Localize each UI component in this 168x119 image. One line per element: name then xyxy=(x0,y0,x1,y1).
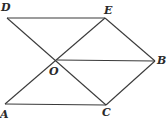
diagram-canvas: D E O B A C xyxy=(0,0,168,119)
label-O: O xyxy=(49,65,59,78)
segment-AC xyxy=(5,104,106,105)
segment-EB xyxy=(105,18,155,61)
segment-BC xyxy=(106,61,155,105)
label-B: B xyxy=(156,54,166,67)
segment-OB xyxy=(57,60,155,61)
geometry-diagram: D E O B A C xyxy=(0,0,168,119)
label-A: A xyxy=(0,108,9,119)
label-D: D xyxy=(0,1,11,14)
segment-DC xyxy=(7,18,106,105)
segments xyxy=(5,18,155,105)
label-C: C xyxy=(102,106,111,119)
label-E: E xyxy=(103,4,113,17)
